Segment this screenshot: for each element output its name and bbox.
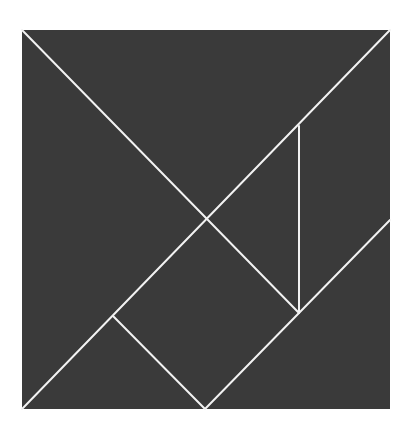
tangram-canvas	[0, 0, 411, 428]
tangram-diagram	[0, 0, 411, 428]
